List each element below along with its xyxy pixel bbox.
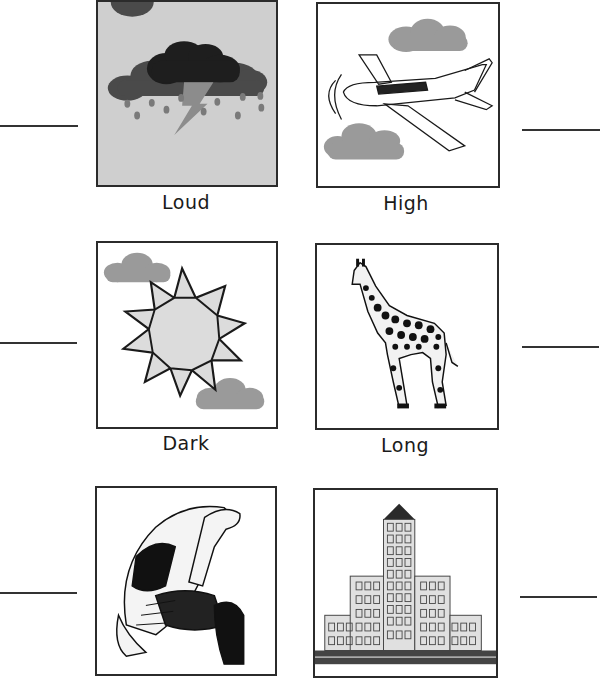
airplane-icon xyxy=(318,4,498,186)
card-sun xyxy=(96,241,278,429)
answer-line-right-1[interactable] xyxy=(522,129,600,131)
card-tortoise xyxy=(95,486,277,676)
sun-icon xyxy=(98,243,276,427)
answer-line-left-1[interactable] xyxy=(0,125,78,127)
answer-line-right-3[interactable] xyxy=(520,596,597,598)
thundercloud-icon xyxy=(98,2,276,185)
giraffe-icon xyxy=(317,245,497,428)
answer-line-left-3[interactable] xyxy=(0,592,77,594)
card-label-airplane: High xyxy=(316,192,496,214)
answer-line-right-2[interactable] xyxy=(522,346,599,348)
card-label-storm: Loud xyxy=(96,191,276,213)
card-label-sun: Dark xyxy=(96,432,276,454)
card-building xyxy=(313,488,498,678)
card-storm xyxy=(96,0,278,187)
card-airplane xyxy=(316,2,500,188)
card-label-giraffe: Long xyxy=(315,434,495,456)
tortoise-icon xyxy=(97,488,275,674)
answer-line-left-2[interactable] xyxy=(0,342,77,344)
building-icon xyxy=(315,490,496,676)
card-giraffe xyxy=(315,243,499,430)
